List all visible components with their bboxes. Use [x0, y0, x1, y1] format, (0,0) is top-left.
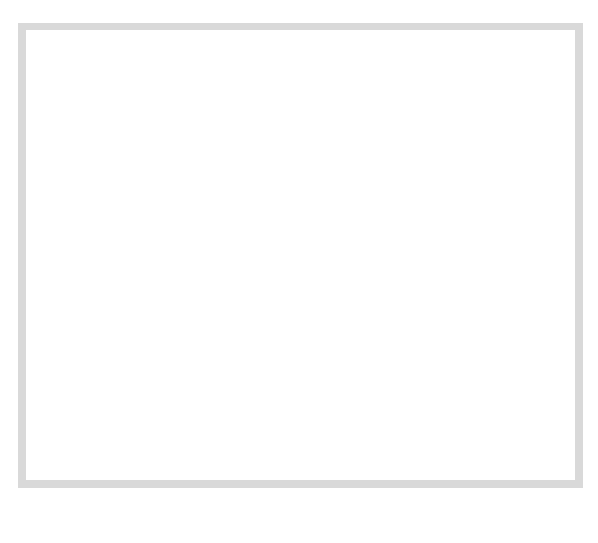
mmpi-profile-chart	[0, 0, 598, 543]
